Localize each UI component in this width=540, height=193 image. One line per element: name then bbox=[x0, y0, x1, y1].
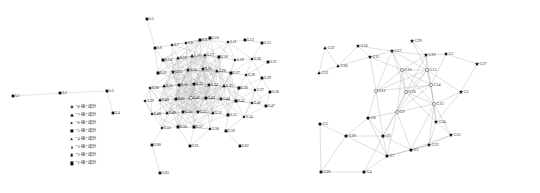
graph-edge bbox=[429, 104, 434, 145]
graph-node[interactable] bbox=[250, 101, 253, 104]
graph-edge bbox=[178, 127, 190, 146]
graph-node[interactable] bbox=[425, 68, 428, 71]
graph-node[interactable] bbox=[150, 112, 153, 115]
graph-node[interactable] bbox=[267, 61, 270, 64]
graph-node[interactable] bbox=[159, 172, 162, 175]
graph-node[interactable] bbox=[146, 18, 149, 21]
graph-edge bbox=[152, 145, 160, 173]
graph-node[interactable] bbox=[170, 43, 173, 46]
graph-node[interactable] bbox=[244, 39, 247, 42]
graph-node[interactable] bbox=[12, 95, 15, 98]
node-label: L6 bbox=[157, 45, 161, 50]
graph-node[interactable] bbox=[409, 148, 412, 151]
graph-node[interactable] bbox=[238, 87, 241, 90]
graph-node[interactable] bbox=[189, 145, 192, 148]
graph-node[interactable] bbox=[230, 72, 233, 75]
graph-node[interactable] bbox=[390, 49, 394, 53]
graph-node[interactable] bbox=[374, 89, 377, 92]
graph-node[interactable] bbox=[362, 170, 365, 173]
node-label: L47 bbox=[268, 103, 274, 108]
graph-node[interactable] bbox=[404, 90, 407, 93]
graph-edge bbox=[412, 41, 427, 70]
graph-node[interactable] bbox=[189, 96, 192, 99]
node-label: G11 bbox=[373, 54, 380, 59]
graph-node[interactable] bbox=[449, 133, 453, 137]
graph-node[interactable] bbox=[235, 100, 238, 103]
node-label: G4 bbox=[367, 169, 372, 174]
graph-node[interactable] bbox=[475, 62, 479, 66]
graph-node[interactable] bbox=[459, 90, 463, 94]
node-label: L4 bbox=[115, 110, 119, 115]
graph-node[interactable] bbox=[218, 56, 221, 59]
graph-node[interactable] bbox=[318, 122, 321, 125]
graph-edge bbox=[427, 70, 461, 92]
graph-node[interactable] bbox=[427, 143, 431, 147]
graph-node[interactable] bbox=[250, 57, 253, 60]
graph-node[interactable] bbox=[112, 112, 115, 115]
graph-node[interactable] bbox=[227, 114, 230, 117]
node-label: L44 bbox=[223, 96, 229, 101]
node-label: L43 bbox=[208, 95, 214, 100]
legend-item-label: “6-核” 成分 bbox=[75, 119, 96, 127]
graph-node[interactable] bbox=[151, 144, 154, 147]
graph-node[interactable] bbox=[395, 110, 398, 113]
graph-node[interactable] bbox=[368, 55, 372, 59]
graph-edge bbox=[434, 104, 436, 122]
graph-node[interactable] bbox=[444, 52, 448, 56]
graph-edge bbox=[319, 48, 325, 73]
graph-node[interactable] bbox=[265, 105, 268, 108]
graph-node[interactable] bbox=[323, 46, 326, 49]
graph-node[interactable] bbox=[226, 40, 229, 43]
graph-node[interactable] bbox=[320, 171, 323, 174]
graph-node[interactable] bbox=[154, 47, 157, 50]
graph-node[interactable] bbox=[157, 72, 160, 75]
node-label: L51 bbox=[200, 109, 206, 114]
node-label: L21 bbox=[270, 59, 276, 64]
graph-node[interactable] bbox=[385, 154, 388, 157]
node-label: L18 bbox=[221, 54, 227, 59]
graph-node[interactable] bbox=[253, 88, 256, 91]
graph-node[interactable] bbox=[222, 84, 225, 87]
graph-node[interactable] bbox=[184, 41, 187, 44]
graph-node[interactable] bbox=[269, 91, 272, 94]
graph-node[interactable] bbox=[261, 77, 264, 80]
graph-node[interactable] bbox=[143, 99, 146, 102]
graph-node[interactable] bbox=[239, 145, 242, 148]
node-label: G12 bbox=[379, 88, 386, 93]
graph-node[interactable] bbox=[261, 42, 264, 45]
node-label: L3 bbox=[109, 88, 113, 93]
graph-node[interactable] bbox=[400, 68, 403, 71]
node-label: L1 bbox=[15, 93, 19, 98]
graph-node[interactable] bbox=[410, 39, 414, 43]
graph-node[interactable] bbox=[193, 126, 196, 129]
graph-edge bbox=[402, 70, 406, 92]
graph-node[interactable] bbox=[242, 115, 245, 118]
graph-node[interactable] bbox=[366, 116, 369, 119]
graph-node[interactable] bbox=[225, 130, 228, 133]
graph-edge bbox=[411, 104, 434, 150]
graph-node[interactable] bbox=[177, 126, 180, 129]
graph-node[interactable] bbox=[160, 126, 163, 129]
graph-node[interactable] bbox=[106, 90, 109, 93]
graph-node[interactable] bbox=[432, 102, 435, 105]
node-label: L62 bbox=[242, 143, 248, 148]
graph-edge bbox=[370, 57, 376, 91]
node-label: G23 bbox=[432, 142, 439, 147]
node-label: L58 bbox=[212, 126, 218, 131]
edge-layer bbox=[319, 41, 477, 172]
graph-node[interactable] bbox=[209, 37, 212, 40]
graph-edge bbox=[107, 91, 113, 113]
node-label: L56 bbox=[180, 124, 186, 129]
node-label: G17 bbox=[395, 48, 402, 53]
graph-node[interactable] bbox=[344, 134, 347, 137]
graph-node[interactable] bbox=[244, 73, 247, 76]
graph-node[interactable] bbox=[199, 39, 202, 42]
graph-node[interactable] bbox=[429, 83, 432, 86]
graph-node[interactable] bbox=[162, 59, 165, 62]
graph-node[interactable] bbox=[59, 92, 62, 95]
node-label: L20 bbox=[254, 56, 260, 61]
legend-item-shell-1: “1-核” 成分 bbox=[68, 159, 96, 167]
node-layer: G22G21G20G18G11G17G29G19G1G27G2G16G15G14… bbox=[317, 38, 486, 174]
node-label: L12 bbox=[247, 37, 253, 42]
node-label: G27 bbox=[480, 61, 487, 66]
